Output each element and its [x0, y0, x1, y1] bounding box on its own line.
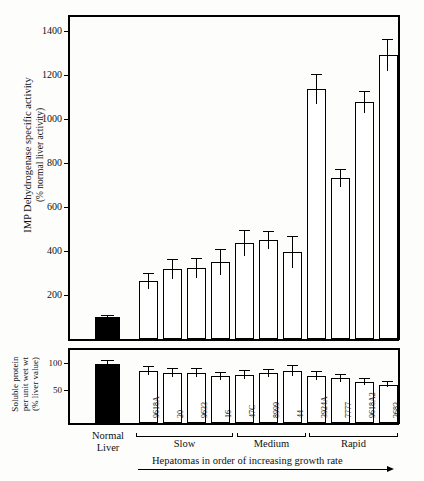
bottom-panel-y-axis-label-line3: (% liver value) [30, 345, 40, 423]
bottom-errcap-9618A [143, 366, 154, 367]
bottom-err-normal-liver [107, 360, 108, 368]
top-errcap-7777 [335, 169, 346, 170]
top-bar-47C [235, 243, 254, 339]
bar-label-9618A: 9618A [152, 396, 161, 418]
top-bar-9633 [187, 268, 206, 339]
top-err-8999 [268, 231, 269, 249]
bottom-errcap-20 [167, 368, 178, 369]
group-line-rapid [309, 436, 398, 437]
bottom-panel-frame-bottom [68, 423, 399, 425]
top-bar-9618A2 [355, 102, 374, 339]
top-panel-frame-right [398, 15, 400, 340]
top-errcap-16 [215, 249, 226, 250]
bottom-err-7777 [340, 374, 341, 382]
top-bar-20 [163, 269, 182, 339]
top-bar-7777 [331, 178, 350, 339]
top-panel-ytick-1000: 1000 [28, 113, 62, 124]
normal-liver-label-line2: Liver [78, 442, 138, 454]
bottom-errcap-9618A2 [359, 378, 370, 379]
top-err-20 [172, 259, 173, 279]
top-err-16 [220, 249, 221, 275]
bottom-err-9618A [148, 366, 149, 375]
bottom-panel-ytick-100: 100 [28, 358, 62, 368]
x-axis-label: Hepatomas in order of increasing growth … [152, 455, 343, 466]
bottom-errcap-16 [215, 372, 226, 373]
group-tick-medium-right [305, 433, 306, 437]
chart-figure: IMP Dehydrogenase specific activity (% n… [0, 0, 424, 481]
group-line-slow [136, 436, 233, 437]
top-panel-tickmark-200 [64, 295, 69, 296]
top-panel-y-axis-label: IMP Dehydrogenase specific activity (% n… [22, 10, 46, 300]
bottom-panel-frame-top [68, 348, 399, 350]
bottom-err-16 [220, 372, 221, 380]
group-tick-slow-left [136, 433, 137, 437]
top-errcap-9618A2 [359, 91, 370, 92]
top-bar-9618A [139, 281, 158, 339]
bottom-errcap-normal-liver [101, 360, 114, 361]
top-bar-normal-liver [95, 317, 120, 339]
x-axis-arrow-line [138, 469, 388, 470]
group-label-medium: Medium [237, 438, 306, 449]
top-err-9633 [196, 258, 197, 278]
bottom-panel-ytick-50: 50 [28, 385, 62, 395]
bottom-err-44 [292, 365, 293, 376]
top-panel-tickmark-1000 [64, 119, 69, 120]
top-panel-tickmark-800 [64, 163, 69, 164]
top-errcap-9618A [143, 273, 154, 274]
bottom-err-8999 [268, 369, 269, 377]
bar-label-3683: 3683 [392, 402, 401, 418]
top-errcap-44 [287, 236, 298, 237]
bar-label-7777: 7777 [344, 402, 353, 418]
top-panel-frame-left [68, 15, 70, 340]
top-bar-8999 [259, 240, 278, 339]
top-err-47C [244, 230, 245, 256]
top-panel-ytick-600: 600 [28, 201, 62, 212]
top-err-3924A [316, 74, 317, 104]
bottom-errcap-44 [287, 365, 298, 366]
top-err-9618A [148, 273, 149, 289]
bottom-errcap-47C [239, 370, 250, 371]
top-err-44 [292, 236, 293, 268]
bottom-err-20 [172, 368, 173, 377]
top-errcap-20 [167, 259, 178, 260]
bottom-panel-tickmark-100 [64, 363, 69, 364]
bottom-panel-y-axis-label: Soluble protein per unit wet wt (% liver… [10, 345, 40, 423]
bar-label-16: 16 [224, 410, 233, 418]
group-line-medium [237, 436, 306, 437]
top-panel-ytick-1400: 1400 [28, 25, 62, 36]
x-axis-arrow-head-icon [387, 466, 394, 472]
top-errcap-8999 [263, 231, 274, 232]
top-panel-tickmark-1200 [64, 75, 69, 76]
top-panel-tickmark-600 [64, 207, 69, 208]
top-panel-ytick-400: 400 [28, 245, 62, 256]
top-err-3683 [387, 39, 388, 71]
top-err-7777 [340, 169, 341, 187]
top-err-9618A2 [364, 91, 365, 113]
group-tick-rapid-right [397, 433, 398, 437]
top-bar-3683 [379, 55, 398, 339]
top-panel-tickmark-400 [64, 251, 69, 252]
top-errcap-9633 [191, 258, 202, 259]
group-label-slow: Slow [136, 438, 233, 449]
group-tick-medium-left [237, 433, 238, 437]
bottom-panel-y-axis-label-line2: per unit wet wt [20, 345, 30, 423]
normal-liver-category-label: Normal Liver [78, 430, 138, 454]
group-tick-rapid-left [309, 433, 310, 437]
top-panel-ytick-800: 800 [28, 157, 62, 168]
top-panel-y-axis-label-line1: IMP Dehydrogenase specific activity [22, 10, 34, 300]
bottom-err-9633 [196, 368, 197, 377]
bottom-panel-frame-left [68, 348, 70, 424]
group-label-rapid: Rapid [309, 438, 398, 449]
bottom-errcap-8999 [263, 369, 274, 370]
group-tick-slow-right [232, 433, 233, 437]
bar-label-20: 20 [176, 410, 185, 418]
bottom-err-3924A [316, 371, 317, 380]
top-panel-frame-bottom [68, 339, 399, 341]
top-errcap-3683 [382, 39, 393, 40]
bottom-errcap-3924A [311, 371, 322, 372]
normal-liver-label-line1: Normal [78, 430, 138, 442]
bottom-errcap-7777 [335, 374, 346, 375]
bar-label-3924A: 3924A [320, 396, 329, 418]
bottom-panel-tickmark-50 [64, 390, 69, 391]
top-errcap-47C [239, 230, 250, 231]
